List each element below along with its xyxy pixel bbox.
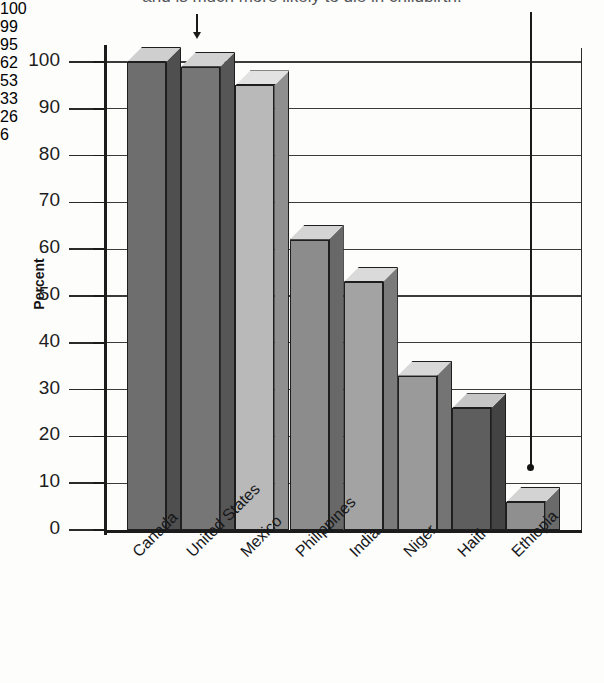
- y-axis-tick-label: 10: [14, 470, 60, 492]
- y-axis-line: [104, 45, 107, 535]
- y-axis-tick-label: 30: [14, 377, 60, 399]
- bar-side-face: [220, 52, 235, 530]
- bar-value-label: 26: [0, 108, 604, 126]
- bar-front-face: [235, 85, 274, 530]
- y-axis-tick-leader: [69, 342, 93, 344]
- y-axis-tick-leader: [69, 202, 93, 204]
- y-axis-tick-label: 50: [14, 283, 60, 305]
- bar-value-label: 53: [0, 72, 604, 90]
- y-axis-tick-leader: [69, 389, 93, 391]
- bar-united-states: [181, 52, 235, 530]
- y-axis-tick-label: 80: [14, 143, 60, 165]
- y-axis-tick-leader: [69, 61, 93, 63]
- y-axis-tick-label: 100: [14, 49, 60, 71]
- bar-front-face: [452, 408, 491, 530]
- bar-value-label: 99: [0, 18, 604, 36]
- bar-side-face: [329, 225, 344, 530]
- bar-canada: [127, 47, 181, 530]
- y-axis-tick-label: 20: [14, 423, 60, 445]
- y-axis-tick-leader: [69, 155, 93, 157]
- y-axis-tick-label: 70: [14, 189, 60, 211]
- bar-mexico: [235, 70, 289, 530]
- y-axis-tick-label: 40: [14, 330, 60, 352]
- y-axis-tick-leader: [69, 108, 93, 110]
- bar-value-label: 6: [0, 126, 604, 144]
- x-axis-line: [104, 530, 582, 533]
- bar-philippines: [290, 225, 344, 530]
- bar-front-face: [290, 240, 329, 530]
- bar-side-face: [274, 70, 289, 530]
- bar-series: 1009995625333266: [0, 0, 604, 144]
- bar-front-face: [127, 62, 166, 530]
- y-axis-tick-leader: [69, 482, 93, 484]
- y-axis-tick-label: 0: [14, 517, 60, 539]
- bar-front-face: [181, 67, 220, 530]
- bar-side-face: [166, 47, 181, 530]
- y-axis-tick-leader: [69, 248, 93, 250]
- bar-value-label: 62: [0, 54, 604, 72]
- y-axis-tick-label: 60: [14, 236, 60, 258]
- figure-caption: and is much more likely to die in childb…: [0, 0, 604, 7]
- y-axis-tick-leader: [69, 529, 93, 531]
- bar-value-label: 95: [0, 36, 604, 54]
- bar-side-face: [437, 361, 452, 530]
- bar-front-face: [344, 282, 383, 530]
- y-axis-tick-leader: [69, 295, 93, 297]
- chart-figure: and is much more likely to die in childb…: [0, 0, 604, 683]
- y-axis-tick-leader: [69, 436, 93, 438]
- bar-value-label: 33: [0, 90, 604, 108]
- bar-side-face: [491, 393, 506, 530]
- bar-haiti: [452, 393, 506, 530]
- bar-side-face: [383, 267, 398, 530]
- bar-niger: [398, 361, 452, 530]
- bar-front-face: [398, 376, 437, 530]
- plot-right-border: [581, 48, 582, 532]
- y-axis-tick-label: 90: [14, 96, 60, 118]
- bar-india: [344, 267, 398, 530]
